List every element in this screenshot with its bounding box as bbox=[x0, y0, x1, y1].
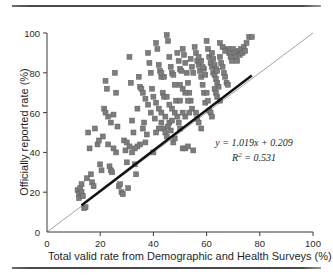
data-point bbox=[184, 70, 189, 75]
y-axis-title: Officially reported rate (%) bbox=[18, 52, 30, 212]
data-point bbox=[196, 54, 201, 59]
x-tick-label: 0 bbox=[44, 238, 49, 249]
data-point bbox=[176, 58, 181, 63]
data-point bbox=[204, 90, 209, 95]
data-point bbox=[114, 90, 119, 95]
data-point bbox=[135, 106, 140, 111]
data-point bbox=[148, 110, 153, 115]
data-point bbox=[126, 186, 131, 191]
x-tick-label: 100 bbox=[305, 238, 321, 249]
data-point bbox=[104, 86, 109, 91]
data-point bbox=[199, 126, 204, 131]
data-point bbox=[185, 98, 190, 103]
data-point bbox=[142, 120, 147, 125]
data-point bbox=[99, 168, 104, 173]
data-point bbox=[200, 82, 205, 87]
regression-equation-text: y = 1.019x + 0.209 bbox=[206, 136, 302, 149]
data-point bbox=[155, 46, 160, 51]
data-point bbox=[118, 182, 123, 187]
data-point bbox=[98, 162, 103, 167]
data-point bbox=[152, 116, 157, 121]
data-point bbox=[180, 110, 185, 115]
data-point bbox=[171, 72, 176, 77]
data-point bbox=[103, 110, 108, 115]
data-point bbox=[178, 82, 183, 87]
data-point bbox=[115, 124, 120, 129]
data-point bbox=[223, 74, 228, 79]
data-point bbox=[200, 64, 205, 69]
data-point bbox=[249, 34, 254, 39]
data-point bbox=[179, 68, 184, 73]
data-point bbox=[185, 80, 190, 85]
data-point bbox=[130, 150, 135, 155]
data-point bbox=[87, 146, 92, 151]
data-point bbox=[170, 118, 175, 123]
x-tick-label: 60 bbox=[201, 238, 212, 249]
data-point bbox=[205, 98, 210, 103]
data-points bbox=[75, 32, 254, 210]
data-point bbox=[154, 40, 159, 45]
data-point bbox=[143, 140, 148, 145]
y-tick-label: 0 bbox=[13, 227, 40, 238]
r-squared-text: R2 = 0.531 bbox=[206, 149, 302, 164]
data-point bbox=[147, 60, 152, 65]
data-point bbox=[209, 114, 214, 119]
data-point bbox=[215, 68, 220, 73]
data-point bbox=[154, 100, 159, 105]
data-point bbox=[191, 70, 196, 75]
data-point bbox=[183, 60, 188, 65]
data-point bbox=[159, 70, 164, 75]
data-point bbox=[204, 38, 209, 43]
data-point bbox=[244, 40, 249, 45]
data-point bbox=[220, 64, 225, 69]
data-point bbox=[168, 128, 173, 133]
data-point bbox=[146, 102, 151, 107]
data-point bbox=[140, 90, 145, 95]
data-point bbox=[156, 62, 161, 67]
data-point bbox=[127, 54, 132, 59]
data-point bbox=[92, 126, 97, 131]
data-point bbox=[154, 130, 159, 135]
data-point bbox=[176, 120, 181, 125]
r-squared-value: = 0.531 bbox=[242, 152, 276, 163]
data-point bbox=[150, 86, 155, 91]
x-tick-label: 20 bbox=[95, 238, 106, 249]
data-point bbox=[156, 106, 161, 111]
data-point bbox=[128, 80, 133, 85]
data-point bbox=[130, 118, 135, 123]
data-point bbox=[140, 126, 145, 131]
data-point bbox=[217, 40, 222, 45]
data-point bbox=[203, 72, 208, 77]
data-point bbox=[191, 148, 196, 153]
data-point bbox=[193, 110, 198, 115]
data-point bbox=[131, 130, 136, 135]
data-point bbox=[209, 50, 214, 55]
data-point bbox=[110, 170, 115, 175]
scatter-plot-figure: 020406080100 020406080100 Total valid ra… bbox=[0, 0, 333, 278]
data-point bbox=[180, 46, 185, 51]
data-point bbox=[211, 56, 216, 61]
data-point bbox=[178, 98, 183, 103]
data-point bbox=[106, 142, 111, 147]
data-point bbox=[164, 94, 169, 99]
data-point bbox=[167, 102, 172, 107]
data-point bbox=[235, 58, 240, 63]
data-point bbox=[86, 130, 91, 135]
data-point bbox=[243, 48, 248, 53]
data-point bbox=[185, 144, 190, 149]
data-point bbox=[136, 74, 141, 79]
data-point bbox=[172, 82, 177, 87]
data-point bbox=[79, 182, 84, 187]
data-point bbox=[159, 120, 164, 125]
data-point bbox=[80, 194, 85, 199]
data-point bbox=[108, 120, 113, 125]
data-point bbox=[144, 132, 149, 137]
data-point bbox=[120, 192, 125, 197]
data-point bbox=[225, 82, 230, 87]
data-point bbox=[143, 96, 148, 101]
data-point bbox=[127, 144, 132, 149]
x-tick-label: 40 bbox=[148, 238, 159, 249]
regression-annotation: y = 1.019x + 0.209 R2 = 0.531 bbox=[206, 136, 302, 164]
data-point bbox=[168, 64, 173, 69]
data-point bbox=[223, 48, 228, 53]
